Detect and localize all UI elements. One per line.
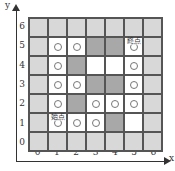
grid-cell-2-0 — [67, 132, 86, 151]
grid-cell-0-6 — [29, 18, 48, 37]
grid-cell-6-1 — [143, 113, 162, 132]
grid-cell-0-1 — [29, 113, 48, 132]
grid-cell-3-3 — [86, 75, 105, 94]
circle-marker-icon — [73, 81, 81, 89]
grid-cell-6-0 — [143, 132, 162, 151]
grid-cell-1-3 — [48, 75, 67, 94]
y-tick-label: 3 — [16, 80, 28, 89]
grid-cell-1-1: 始点 — [48, 113, 67, 132]
grid-cell-1-5 — [48, 37, 67, 56]
grid-cell-2-4 — [67, 56, 86, 75]
grid-cell-6-3 — [143, 75, 162, 94]
grid-cell-0-0 — [29, 132, 48, 151]
grid-diagram: y x 6543210 0123456 終点始点 — [0, 0, 175, 171]
circle-marker-icon — [73, 43, 81, 51]
grid-cell-5-5: 終点 — [124, 37, 143, 56]
grid-cell-5-0 — [124, 132, 143, 151]
grid-cell-3-0 — [86, 132, 105, 151]
y-tick-label: 5 — [16, 41, 28, 50]
grid-cell-4-0 — [105, 132, 124, 151]
grid-cell-6-6 — [143, 18, 162, 37]
grid-cell-3-4 — [86, 56, 105, 75]
y-tick-label: 6 — [16, 22, 28, 31]
grid-cell-4-3 — [105, 75, 124, 94]
grid-cell-5-2 — [124, 94, 143, 113]
grid-cell-0-5 — [29, 37, 48, 56]
circle-marker-icon — [54, 100, 62, 108]
grid-cell-0-4 — [29, 56, 48, 75]
end-point-label: 終点 — [125, 38, 142, 45]
grid-cell-4-2 — [105, 94, 124, 113]
y-tick-label: 2 — [16, 99, 28, 108]
circle-marker-icon — [54, 81, 62, 89]
circle-marker-icon — [130, 100, 138, 108]
grid: 終点始点 — [28, 17, 163, 152]
grid-cell-1-2 — [48, 94, 67, 113]
grid-cell-0-3 — [29, 75, 48, 94]
grid-cell-4-6 — [105, 18, 124, 37]
y-axis-label: y — [5, 1, 10, 10]
grid-cell-2-1 — [67, 113, 86, 132]
circle-marker-icon — [73, 119, 81, 127]
start-point-label: 始点 — [49, 114, 66, 121]
grid-cell-5-3 — [124, 75, 143, 94]
grid-cell-0-2 — [29, 94, 48, 113]
grid-cell-2-6 — [67, 18, 86, 37]
grid-cell-1-0 — [48, 132, 67, 151]
y-tick-label: 0 — [16, 138, 28, 147]
grid-cell-2-5 — [67, 37, 86, 56]
circle-marker-icon — [54, 62, 62, 70]
grid-cell-4-4 — [105, 56, 124, 75]
x-axis-line — [16, 161, 167, 162]
y-tick-label: 1 — [16, 119, 28, 128]
grid-cell-4-1 — [105, 113, 124, 132]
grid-cell-3-1 — [86, 113, 105, 132]
grid-cell-1-6 — [48, 18, 67, 37]
x-axis-label: x — [169, 154, 174, 163]
grid-cell-3-5 — [86, 37, 105, 56]
circle-marker-icon — [130, 81, 138, 89]
circle-marker-icon — [111, 100, 119, 108]
circle-marker-icon — [92, 119, 100, 127]
grid-cell-2-3 — [67, 75, 86, 94]
circle-marker-icon — [54, 43, 62, 51]
circle-marker-icon — [130, 62, 138, 70]
grid-cell-4-5 — [105, 37, 124, 56]
grid-cell-6-4 — [143, 56, 162, 75]
grid-cell-5-6 — [124, 18, 143, 37]
grid-cell-5-4 — [124, 56, 143, 75]
grid-cell-1-4 — [48, 56, 67, 75]
grid-cell-6-5 — [143, 37, 162, 56]
circle-marker-icon — [92, 100, 100, 108]
grid-cell-2-2 — [67, 94, 86, 113]
y-axis-arrow-icon — [12, 4, 20, 11]
grid-cell-6-2 — [143, 94, 162, 113]
grid-cell-3-2 — [86, 94, 105, 113]
grid-cell-5-1 — [124, 113, 143, 132]
y-tick-label: 4 — [16, 61, 28, 70]
grid-cell-3-6 — [86, 18, 105, 37]
